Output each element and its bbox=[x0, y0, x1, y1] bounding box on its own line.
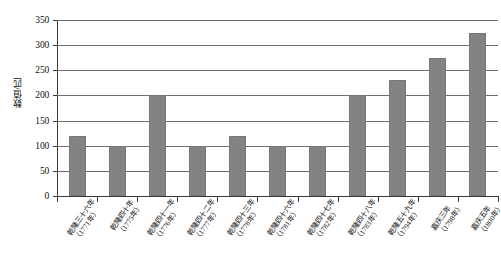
y-tick-label: 250 bbox=[15, 65, 49, 75]
bars-container bbox=[57, 20, 498, 196]
bar-slot bbox=[338, 20, 378, 196]
bar-slot bbox=[217, 20, 257, 196]
bar-slot bbox=[177, 20, 217, 196]
x-tick-label: 乾隆三十六年（1771年） bbox=[66, 198, 104, 242]
bar[interactable] bbox=[349, 95, 366, 196]
x-tick-mark bbox=[498, 196, 499, 202]
bar-slot bbox=[137, 20, 177, 196]
x-tick-label: 乾隆四十三年（1778年） bbox=[226, 198, 264, 242]
bar[interactable] bbox=[109, 146, 126, 196]
y-tick-label: 50 bbox=[15, 166, 49, 176]
bar-slot bbox=[458, 20, 498, 196]
bar[interactable] bbox=[389, 80, 406, 196]
bar[interactable] bbox=[309, 146, 326, 196]
y-tick-label: 350 bbox=[15, 15, 49, 25]
plot-area bbox=[57, 20, 498, 196]
y-tick-label: 300 bbox=[15, 40, 49, 50]
bar[interactable] bbox=[189, 146, 206, 196]
bar[interactable] bbox=[269, 146, 286, 196]
bar[interactable] bbox=[469, 33, 486, 196]
bar-slot bbox=[418, 20, 458, 196]
bar[interactable] bbox=[69, 136, 86, 196]
y-tick-label: 200 bbox=[15, 90, 49, 100]
bar-slot bbox=[97, 20, 137, 196]
y-tick-label: 0 bbox=[15, 191, 49, 201]
bar[interactable] bbox=[229, 136, 246, 196]
x-tick-label: 乾隆四十七年（1782年） bbox=[306, 198, 344, 242]
x-tick-label: 乾隆四十二年（1777年） bbox=[186, 198, 224, 242]
x-tick-label: 乾隆四十八年（1783年） bbox=[346, 198, 384, 242]
x-tick-label: 乾隆五十九年（1794年） bbox=[387, 198, 425, 242]
bar-slot bbox=[298, 20, 338, 196]
bar-slot bbox=[378, 20, 418, 196]
x-tick-label: 乾隆四十年（1775年） bbox=[109, 198, 144, 237]
y-tick-label: 150 bbox=[15, 116, 49, 126]
x-tick-label: 乾隆四十六年（1781年） bbox=[266, 198, 304, 242]
bar-chart: 数值/匹 350300250200150100500 乾隆三十六年（1771年）… bbox=[0, 0, 501, 279]
x-tick-label: 乾隆四十一年（1776年） bbox=[146, 198, 184, 242]
x-tick-label: 嘉庆三年（1798年） bbox=[430, 198, 465, 237]
x-tick-label: 嘉庆五年（1800年） bbox=[470, 198, 501, 237]
bar-slot bbox=[57, 20, 97, 196]
bar[interactable] bbox=[149, 95, 166, 196]
y-tick-label: 100 bbox=[15, 141, 49, 151]
bar-slot bbox=[257, 20, 297, 196]
bar[interactable] bbox=[429, 58, 446, 196]
x-axis-tick-labels: 乾隆三十六年（1771年）乾隆四十年（1775年）乾隆四十一年（1776年）乾隆… bbox=[57, 198, 498, 279]
